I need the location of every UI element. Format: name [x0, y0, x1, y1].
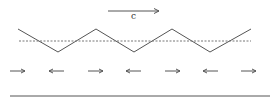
bottom-arrows	[10, 69, 256, 73]
velocity-label: c	[131, 12, 136, 21]
